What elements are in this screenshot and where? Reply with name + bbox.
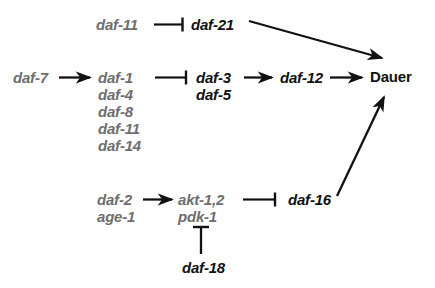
cluster-item-daf-8: daf-8 [98, 103, 141, 120]
edge-daf1-inhibits-daf3 [155, 71, 186, 85]
cluster-item-daf-2: daf-2 [97, 191, 135, 208]
node-cluster-daf-3[interactable]: daf-3 daf-5 [196, 69, 231, 103]
cluster-item-daf-11: daf-11 [98, 120, 141, 137]
cluster-item-akt-1-2: akt-1,2 [178, 191, 224, 208]
node-daf-18[interactable]: daf-18 [182, 259, 225, 276]
cluster-item-daf-5: daf-5 [196, 86, 231, 103]
node-cluster-daf-2[interactable]: daf-2 age-1 [97, 191, 135, 225]
cluster-item-daf-3: daf-3 [196, 69, 231, 86]
cluster-item-daf-1: daf-1 [98, 69, 141, 86]
pathway-diagram: daf-11 daf-21 daf-7 daf-1 daf-4 daf-8 da… [0, 0, 435, 288]
edge-akt-inhibits-daf16 [243, 193, 275, 207]
cluster-item-daf-14: daf-14 [98, 137, 141, 154]
node-cluster-akt[interactable]: akt-1,2 pdk-1 [178, 191, 224, 225]
node-cluster-daf-1[interactable]: daf-1 daf-4 daf-8 daf-11 daf-14 [98, 69, 141, 154]
edge-layer [0, 0, 435, 288]
edge-daf21-activates-dauer [249, 21, 382, 58]
node-daf-12[interactable]: daf-12 [280, 69, 323, 86]
node-daf-11-top[interactable]: daf-11 [96, 16, 138, 33]
edge-daf18-inhibits-pdk1 [193, 227, 209, 254]
node-daf-7[interactable]: daf-7 [13, 69, 48, 86]
edge-daf11-inhibits-daf21 [154, 18, 183, 32]
node-daf-21[interactable]: daf-21 [191, 16, 234, 33]
cluster-item-pdk-1: pdk-1 [178, 208, 224, 225]
edge-daf16-activates-dauer [337, 97, 384, 196]
node-daf-16[interactable]: daf-16 [288, 191, 331, 208]
cluster-item-daf-4: daf-4 [98, 86, 141, 103]
cluster-item-age-1: age-1 [97, 208, 135, 225]
node-dauer[interactable]: Dauer [370, 68, 412, 85]
